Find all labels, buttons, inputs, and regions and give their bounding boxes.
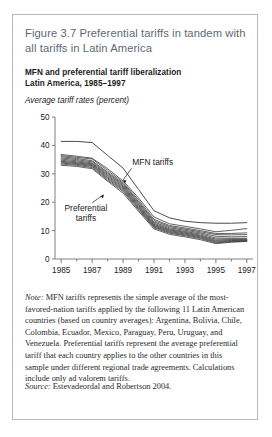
y-tick-label: 30 (40, 170, 50, 179)
annotation-preferential-tariffs-line1: Preferential (65, 203, 108, 213)
x-tick-label: 1985 (52, 266, 71, 275)
figure-container: Figure 3.7Preferential tariffs in tandem… (12, 14, 258, 420)
note-label: Note: (25, 293, 44, 302)
y-tick-label: 50 (40, 113, 50, 122)
y-tick-label: 40 (40, 141, 50, 150)
x-tick-label: 1991 (145, 266, 164, 275)
x-tick-label: 1993 (176, 266, 195, 275)
x-tick-label: 1987 (83, 266, 102, 275)
note-text: MFN tariffs represents the simple averag… (25, 293, 244, 383)
y-tick-label: 10 (40, 227, 50, 236)
figure-title: Figure 3.7Preferential tariffs in tandem… (25, 26, 249, 55)
annotation-preferential-tariffs-line2: tariffs (76, 213, 96, 223)
figure-subtitle: MFN and preferential tariff liberalizati… (25, 68, 249, 89)
figure-inner: Figure 3.7Preferential tariffs in tandem… (13, 15, 257, 419)
x-tick-label: 1995 (207, 266, 226, 275)
source-label: Source: (25, 382, 51, 391)
y-tick-label: 20 (40, 198, 50, 207)
x-axis: 1985198719891991199319951997 (52, 259, 256, 275)
figure-source: Source: Estevadeordal and Robertson 2004… (25, 381, 247, 393)
y-axis: 01020304050 (40, 113, 55, 264)
y-tick-label: 0 (45, 255, 50, 264)
x-tick-label: 1997 (238, 266, 257, 275)
tariff-line-chart: 01020304050 1985198719891991199319951997… (15, 107, 257, 289)
subtitle-line-1: MFN and preferential tariff liberalizati… (25, 68, 249, 79)
figure-number: Figure 3.7 (25, 27, 76, 39)
figure-note: Note: MFN tariffs represents the simple … (25, 292, 247, 385)
x-tick-label: 1989 (114, 266, 133, 275)
source-text: Estevadeordal and Robertson 2004. (51, 382, 172, 391)
annotation-mfn-tariffs: MFN tariffs (132, 157, 173, 167)
subtitle-line-2: Latin America, 1985–1997 (25, 79, 249, 90)
y-axis-caption: Average tariff rates (percent) (25, 96, 129, 105)
